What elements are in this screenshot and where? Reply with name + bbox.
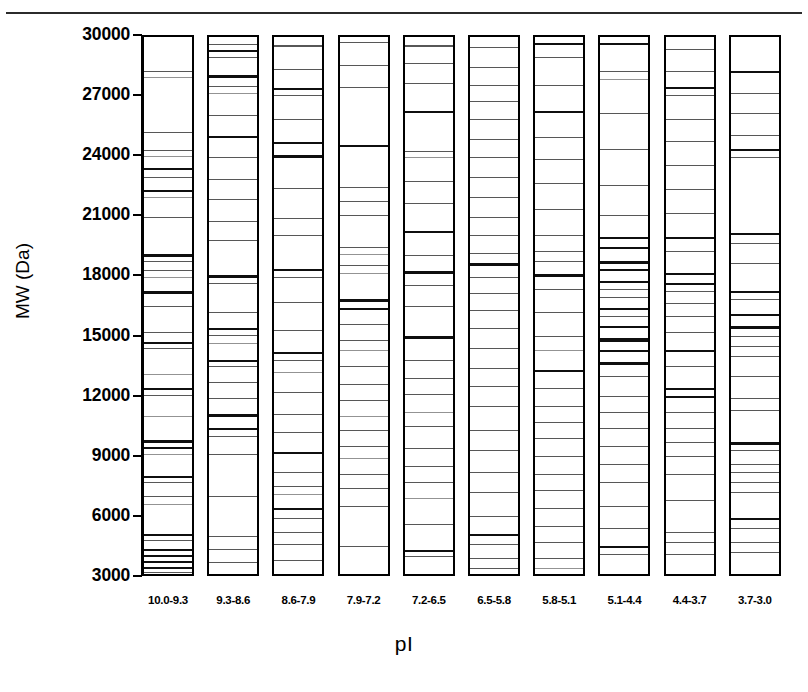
protein-band bbox=[666, 87, 714, 89]
protein-band bbox=[666, 350, 714, 352]
protein-band bbox=[274, 218, 322, 219]
protein-band bbox=[340, 416, 388, 417]
protein-band bbox=[470, 568, 518, 569]
protein-band bbox=[274, 472, 322, 473]
protein-band bbox=[666, 95, 714, 96]
y-tick-label: 6000 bbox=[40, 507, 130, 525]
protein-band bbox=[209, 44, 257, 45]
y-tick-3000 bbox=[133, 575, 142, 577]
protein-band bbox=[731, 552, 779, 553]
gel-lane[interactable] bbox=[729, 35, 781, 576]
protein-band bbox=[666, 396, 714, 398]
protein-band bbox=[209, 240, 257, 241]
protein-band bbox=[470, 558, 518, 559]
protein-band bbox=[535, 542, 583, 543]
protein-band bbox=[731, 346, 779, 347]
protein-band bbox=[274, 414, 322, 415]
protein-band bbox=[274, 277, 322, 278]
protein-band bbox=[731, 450, 779, 451]
protein-band bbox=[209, 335, 257, 336]
protein-band bbox=[274, 69, 322, 70]
protein-band bbox=[470, 516, 518, 517]
protein-band bbox=[340, 247, 388, 248]
protein-band bbox=[209, 86, 257, 87]
lane-label-5.8-5.1: 5.8-5.1 bbox=[527, 594, 591, 606]
protein-band bbox=[535, 274, 583, 277]
protein-band bbox=[731, 93, 779, 94]
gel-lane[interactable] bbox=[142, 35, 194, 576]
gel-lane[interactable] bbox=[664, 35, 716, 576]
protein-band bbox=[209, 57, 257, 58]
protein-band bbox=[144, 270, 192, 271]
y-tick-15000 bbox=[133, 335, 142, 337]
protein-band bbox=[209, 93, 257, 94]
protein-band bbox=[144, 504, 192, 505]
protein-band bbox=[470, 328, 518, 329]
y-tick-9000 bbox=[133, 455, 142, 457]
protein-band bbox=[666, 474, 714, 475]
protein-band bbox=[209, 343, 257, 344]
protein-band bbox=[405, 231, 453, 233]
protein-band bbox=[600, 506, 648, 507]
protein-band bbox=[470, 293, 518, 294]
protein-band bbox=[209, 382, 257, 383]
protein-band bbox=[405, 336, 453, 339]
protein-band bbox=[470, 368, 518, 369]
gel-lane[interactable] bbox=[272, 35, 324, 576]
protein-band bbox=[731, 472, 779, 473]
protein-band bbox=[731, 482, 779, 483]
gel-lane[interactable] bbox=[468, 35, 520, 576]
gel-lane[interactable] bbox=[338, 35, 390, 576]
protein-band bbox=[274, 508, 322, 510]
protein-band bbox=[731, 356, 779, 357]
protein-band bbox=[209, 549, 257, 550]
protein-band bbox=[666, 237, 714, 239]
protein-band bbox=[144, 440, 192, 443]
protein-band bbox=[340, 366, 388, 367]
protein-band bbox=[274, 494, 322, 495]
protein-band bbox=[600, 185, 648, 186]
protein-band bbox=[600, 316, 648, 317]
protein-band bbox=[600, 237, 648, 239]
protein-band bbox=[209, 398, 257, 399]
protein-band bbox=[666, 71, 714, 72]
protein-band bbox=[600, 297, 648, 298]
protein-band bbox=[666, 428, 714, 429]
plot-area: 3000600090001200015000180002100024000270… bbox=[0, 0, 808, 692]
protein-band bbox=[600, 289, 648, 290]
protein-band bbox=[405, 448, 453, 449]
protein-band bbox=[209, 115, 257, 116]
protein-band bbox=[144, 540, 192, 541]
y-tick-label: 27000 bbox=[40, 86, 130, 104]
protein-band bbox=[405, 271, 453, 274]
protein-band bbox=[666, 366, 714, 367]
y-tick-label: 15000 bbox=[40, 327, 130, 345]
gel-lane[interactable] bbox=[598, 35, 650, 576]
protein-band bbox=[600, 247, 648, 249]
protein-band bbox=[209, 136, 257, 138]
protein-band bbox=[274, 360, 322, 361]
protein-band bbox=[600, 43, 648, 45]
protein-band bbox=[600, 113, 648, 114]
protein-band bbox=[209, 536, 257, 537]
protein-band bbox=[274, 372, 322, 373]
protein-band bbox=[405, 466, 453, 467]
gel-lane[interactable] bbox=[207, 35, 259, 576]
protein-band bbox=[535, 526, 583, 527]
protein-band bbox=[731, 71, 779, 73]
protein-band bbox=[274, 45, 322, 47]
gel-lane[interactable] bbox=[403, 35, 455, 576]
protein-band bbox=[209, 454, 257, 455]
y-tick-18000 bbox=[133, 274, 142, 276]
protein-band bbox=[470, 197, 518, 198]
protein-band bbox=[535, 474, 583, 475]
protein-band bbox=[274, 88, 322, 90]
protein-band bbox=[405, 181, 453, 182]
lane-label-8.6-7.9: 8.6-7.9 bbox=[266, 594, 330, 606]
protein-band bbox=[666, 412, 714, 413]
protein-band bbox=[144, 77, 192, 78]
protein-band bbox=[666, 165, 714, 166]
protein-band bbox=[731, 233, 779, 235]
gel-lane[interactable] bbox=[533, 35, 585, 576]
y-tick-label: 21000 bbox=[40, 206, 130, 224]
